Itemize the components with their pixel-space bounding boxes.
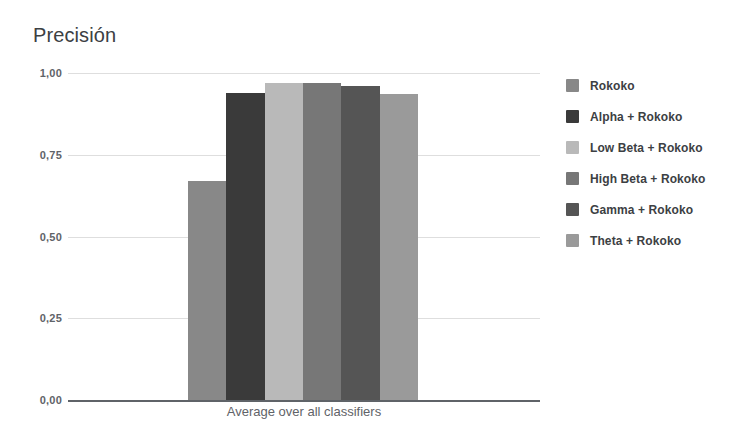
legend-item-label: Gamma + Rokoko [590, 203, 693, 217]
chart-title: Precisión [33, 24, 116, 47]
legend-swatch-icon [566, 141, 579, 154]
legend-item[interactable]: High Beta + Rokoko [566, 163, 726, 194]
y-axis-tick-label: 0,50 [22, 231, 62, 243]
legend-swatch-icon [566, 172, 579, 185]
y-axis-tick-label: 1,00 [22, 67, 62, 79]
bar[interactable] [226, 93, 264, 400]
legend-item[interactable]: Rokoko [566, 70, 726, 101]
legend-item-label: Low Beta + Rokoko [590, 141, 703, 155]
legend-item-label: Theta + Rokoko [590, 234, 681, 248]
x-axis-label: Average over all classifiers [68, 404, 540, 419]
bar[interactable] [265, 83, 303, 400]
y-axis-tick-label: 0,75 [22, 149, 62, 161]
bar[interactable] [380, 94, 418, 400]
legend-item-label: High Beta + Rokoko [590, 172, 705, 186]
legend-swatch-icon [566, 203, 579, 216]
x-axis-line [68, 400, 540, 402]
y-axis-tick-label: 0,25 [22, 312, 62, 324]
legend-item-label: Alpha + Rokoko [590, 110, 682, 124]
legend-item[interactable]: Alpha + Rokoko [566, 101, 726, 132]
bar-group [188, 73, 418, 400]
y-axis-tick-label: 0,00 [22, 394, 62, 406]
legend-item-label: Rokoko [590, 79, 635, 93]
legend-swatch-icon [566, 110, 579, 123]
bar[interactable] [341, 86, 379, 400]
bar[interactable] [188, 181, 226, 400]
legend-swatch-icon [566, 234, 579, 247]
legend-item[interactable]: Low Beta + Rokoko [566, 132, 726, 163]
y-axis-tick-labels: 1,000,750,500,250,00 [18, 73, 62, 400]
legend-item[interactable]: Theta + Rokoko [566, 225, 726, 256]
legend-swatch-icon [566, 79, 579, 92]
precision-bar-chart: Precisión 1,000,750,500,250,00 Average o… [0, 0, 729, 444]
legend-item[interactable]: Gamma + Rokoko [566, 194, 726, 225]
bar[interactable] [303, 83, 341, 400]
chart-legend: RokokoAlpha + RokokoLow Beta + RokokoHig… [566, 70, 726, 256]
